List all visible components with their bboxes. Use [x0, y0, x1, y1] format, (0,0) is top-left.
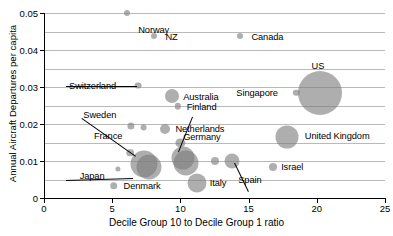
- point-label-nz: NZ: [165, 32, 177, 42]
- x-axis-tick-label: 20: [312, 203, 323, 214]
- y-axis-tick: [40, 50, 44, 51]
- data-point-denmark: [110, 182, 118, 190]
- plot-area: NorwayNZCanadaUSSwitzerlandAustraliaFinl…: [44, 13, 385, 198]
- data-point-canada: [237, 33, 243, 39]
- data-point-australia: [165, 89, 179, 103]
- gridline: [44, 69, 385, 70]
- y-axis-tick-label: 0.05: [20, 8, 39, 19]
- data-point-germany: [172, 147, 195, 170]
- data-point: [211, 157, 219, 165]
- data-point-norway: [124, 10, 130, 16]
- y-axis-tick-label: 0.02: [20, 119, 39, 130]
- data-point-italy: [187, 174, 206, 193]
- gridline: [44, 32, 385, 33]
- y-axis-line: [44, 13, 45, 199]
- x-axis-tick-label: 0: [41, 203, 46, 214]
- point-label-singapore: Singapore: [236, 88, 278, 98]
- point-label-us: US: [312, 61, 325, 71]
- point-label-australia: Australia: [183, 92, 218, 102]
- y-axis-tick-label: 0.03: [20, 82, 39, 93]
- y-axis-tick: [40, 161, 44, 162]
- leader-line-switzerland: [66, 86, 137, 87]
- x-axis-tick-label: 15: [243, 203, 254, 214]
- data-point-united-kingdom: [275, 125, 298, 148]
- data-point-us: [298, 71, 342, 115]
- gridline: [44, 13, 385, 14]
- data-point: [137, 155, 162, 180]
- point-label-sweden: Sweden: [83, 110, 116, 120]
- point-label-canada: Canada: [251, 32, 283, 42]
- point-label-germany: Germany: [183, 132, 221, 142]
- bubble-chart: NorwayNZCanadaUSSwitzerlandAustraliaFinl…: [0, 0, 393, 236]
- data-point: [140, 124, 147, 131]
- data-point-spain: [225, 154, 240, 169]
- y-axis-tick-label: 0.01: [20, 156, 39, 167]
- data-point-israel: [269, 163, 277, 171]
- y-axis-tick: [40, 87, 44, 88]
- point-label-italy: Italy: [210, 178, 227, 188]
- x-axis-tick-label: 10: [175, 203, 186, 214]
- data-point-japan: [115, 166, 120, 171]
- x-axis-line: [44, 198, 386, 199]
- data-point-finland: [174, 103, 180, 109]
- gridline: [44, 143, 385, 144]
- y-axis-tick: [40, 124, 44, 125]
- point-label-israel: Israel: [281, 162, 303, 172]
- x-axis-tick-label: 5: [110, 203, 115, 214]
- y-axis-tick-label: 0.04: [20, 45, 39, 56]
- point-label-denmark: Denmark: [124, 181, 161, 191]
- point-label-finland: Finland: [187, 102, 217, 112]
- x-axis-tick-label: 25: [380, 203, 391, 214]
- data-point-sweden: [128, 122, 135, 129]
- x-axis-title: Decile Group 10 to Decile Group 1 ratio: [0, 217, 393, 228]
- data-point-netherlands: [160, 124, 170, 134]
- point-label-united-kingdom: United Kingdom: [305, 131, 370, 141]
- y-axis-tick: [40, 13, 44, 14]
- y-axis-tick-label: 0: [33, 193, 38, 204]
- y-axis-title: Annual Aircraft Departures per capita: [7, 9, 18, 199]
- gridline: [44, 50, 385, 51]
